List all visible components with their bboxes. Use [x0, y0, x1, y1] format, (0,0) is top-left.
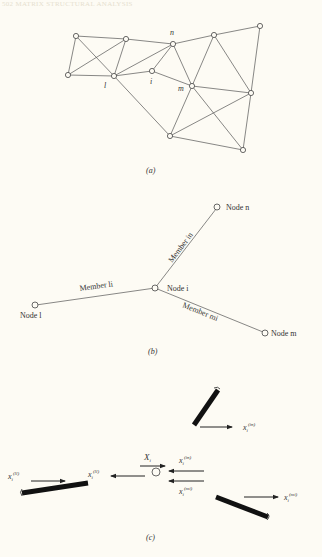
truss-node-m — [189, 83, 194, 88]
cut-mark-icon — [214, 387, 220, 389]
truss-node — [211, 32, 216, 37]
truss-node-n — [170, 41, 175, 46]
node-l-label: Node l — [20, 311, 42, 320]
caption-a: (a) — [146, 166, 156, 175]
node-m-label: Node m — [271, 329, 297, 338]
truss-node — [240, 147, 245, 152]
force-label-in-center: xi(in) — [178, 455, 192, 466]
member-mi-bar — [216, 497, 268, 517]
node-n-label: Node n — [226, 203, 249, 212]
member-mi-label: Member mi — [181, 301, 220, 324]
node-i-label: Node i — [167, 284, 189, 293]
label-m: m — [178, 84, 184, 93]
node-m — [262, 330, 268, 336]
caption-c: (c) — [146, 533, 155, 542]
node-l — [32, 302, 38, 308]
node-i-free-body — [152, 468, 160, 476]
truss-node-i — [149, 68, 154, 73]
truss-node — [123, 36, 128, 41]
label-i: i — [150, 77, 152, 86]
force-label-mi-right: xi(mi) — [283, 492, 298, 503]
node-i — [152, 285, 158, 291]
force-label-ll-left: xi(ll) — [7, 471, 19, 482]
label-l: l — [104, 81, 107, 90]
force-label-mi-center: xi(mi) — [178, 486, 193, 497]
label-n: n — [170, 28, 174, 37]
truss-node — [257, 23, 262, 28]
cut-mark-icon — [21, 489, 23, 496]
panel-a-truss: n l i m (a) — [65, 23, 262, 175]
truss-node — [167, 133, 172, 138]
truss-node — [73, 33, 78, 38]
panel-c-free-body: xi(in) xi(ll) xi(ll) Xi xi(in) xi(mi) — [7, 387, 298, 542]
member-in-bar — [194, 390, 218, 425]
truss-node-l — [111, 73, 116, 78]
truss-node — [248, 90, 253, 95]
member-in-label: Member in — [166, 231, 194, 265]
member-li-bar — [22, 483, 88, 493]
structural-diagram: n l i m (a) Node n Node i Node l Node m … — [0, 0, 322, 557]
caption-b: (b) — [148, 347, 158, 356]
node-n — [214, 204, 220, 210]
member-li-label: Member li — [79, 279, 114, 293]
force-label-ll-center: xi(ll) — [87, 469, 99, 480]
force-label-in-top: xi(in) — [242, 422, 256, 433]
panel-b-node-detail: Node n Node i Node l Node m Member in Me… — [20, 203, 297, 356]
truss-node — [65, 72, 70, 77]
external-force-label: Xi — [143, 452, 152, 463]
